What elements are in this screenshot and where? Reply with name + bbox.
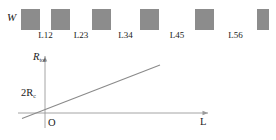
intercept-label: 2Rc bbox=[21, 87, 36, 99]
data-line-rtot bbox=[22, 65, 160, 119]
contact-block bbox=[92, 9, 111, 30]
plot-svg: Rtot 2Rc O L bbox=[0, 48, 276, 140]
bar-width-label: W bbox=[7, 12, 16, 23]
figure-root: W L12 L23 L34 L45 L56 bbox=[0, 0, 276, 140]
contact-block bbox=[21, 9, 40, 30]
gap-label-l34: L34 bbox=[118, 31, 133, 40]
x-axis-label: L bbox=[200, 116, 206, 127]
tlm-bar-schematic: W L12 L23 L34 L45 L56 bbox=[0, 0, 276, 48]
gap-label-l45: L45 bbox=[170, 31, 185, 40]
y-axis-label-sub: tot bbox=[39, 57, 46, 63]
origin-label: O bbox=[48, 117, 56, 128]
gap-label-l12: L12 bbox=[38, 31, 53, 40]
contact-block bbox=[140, 9, 159, 30]
intercept-label-base: 2R bbox=[21, 87, 33, 98]
gap-label-l56: L56 bbox=[228, 31, 243, 40]
contact-block bbox=[257, 9, 269, 30]
intercept-label-sub: c bbox=[33, 93, 36, 99]
contact-block bbox=[195, 9, 214, 30]
y-axis-label: Rtot bbox=[32, 51, 46, 63]
rtot-vs-l-plot: Rtot 2Rc O L bbox=[0, 48, 276, 140]
contact-block bbox=[51, 9, 70, 30]
x-axis-arrow bbox=[203, 111, 209, 115]
bar-track bbox=[21, 9, 269, 30]
gap-label-l23: L23 bbox=[74, 31, 89, 40]
